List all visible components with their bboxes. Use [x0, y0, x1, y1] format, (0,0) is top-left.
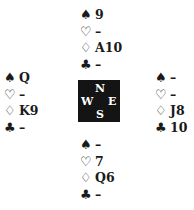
- north-clubs-row: ♣–: [80, 57, 122, 74]
- spade-icon: ♠: [155, 70, 170, 87]
- north-clubs: –: [95, 57, 101, 72]
- heart-icon: ♡: [80, 154, 95, 171]
- east-clubs-row: ♣10: [155, 120, 187, 137]
- club-icon: ♣: [80, 57, 95, 74]
- north-diamonds: A10: [95, 40, 122, 55]
- diamond-icon: ♢: [80, 170, 95, 187]
- spade-icon: ♠: [80, 7, 95, 24]
- north-diamonds-row: ♢A10: [80, 40, 122, 57]
- east-hearts-row: ♡–: [155, 87, 187, 104]
- south-diamonds: Q6: [95, 170, 115, 185]
- west-diamonds: K9: [19, 103, 39, 118]
- south-hand: ♠– ♡7 ♢Q6 ♣–: [80, 137, 115, 203]
- south-clubs-row: ♣–: [80, 187, 115, 204]
- west-diamonds-row: ♢K9: [4, 103, 39, 120]
- north-spades: 9: [95, 7, 104, 22]
- west-spades-row: ♠Q: [4, 70, 39, 87]
- diamond-icon: ♢: [4, 103, 19, 120]
- compass-east: E: [108, 96, 116, 107]
- compass-south: S: [96, 109, 104, 120]
- compass-west: W: [81, 96, 93, 107]
- north-spades-row: ♠9: [80, 7, 122, 24]
- south-spades-row: ♠–: [80, 137, 115, 154]
- heart-icon: ♡: [155, 87, 170, 104]
- north-hearts-row: ♡–: [80, 24, 122, 41]
- north-hand: ♠9 ♡– ♢A10 ♣–: [80, 7, 122, 73]
- diamond-icon: ♢: [80, 40, 95, 57]
- east-hand: ♠– ♡– ♢J8 ♣10: [155, 70, 187, 136]
- east-hearts: –: [170, 87, 176, 102]
- club-icon: ♣: [4, 120, 19, 137]
- west-hearts: –: [19, 87, 25, 102]
- heart-icon: ♡: [4, 87, 19, 104]
- north-hearts: –: [95, 24, 101, 39]
- west-spades: Q: [19, 70, 30, 85]
- club-icon: ♣: [80, 187, 95, 204]
- east-clubs: 10: [170, 120, 187, 135]
- west-hand: ♠Q ♡– ♢K9 ♣–: [4, 70, 39, 136]
- east-spades-row: ♠–: [155, 70, 187, 87]
- south-spades: –: [95, 137, 101, 152]
- south-diamonds-row: ♢Q6: [80, 170, 115, 187]
- club-icon: ♣: [155, 120, 170, 137]
- west-hearts-row: ♡–: [4, 87, 39, 104]
- compass-north: N: [95, 83, 105, 94]
- west-clubs-row: ♣–: [4, 120, 39, 137]
- heart-icon: ♡: [80, 24, 95, 41]
- south-hearts-row: ♡7: [80, 154, 115, 171]
- south-clubs: –: [95, 187, 101, 202]
- compass-box: N W E S: [78, 80, 120, 122]
- diamond-icon: ♢: [155, 103, 170, 120]
- south-hearts: 7: [95, 154, 104, 169]
- west-clubs: –: [19, 120, 25, 135]
- spade-icon: ♠: [80, 137, 95, 154]
- east-spades: –: [170, 70, 176, 85]
- spade-icon: ♠: [4, 70, 19, 87]
- east-diamonds: J8: [170, 103, 185, 118]
- east-diamonds-row: ♢J8: [155, 103, 187, 120]
